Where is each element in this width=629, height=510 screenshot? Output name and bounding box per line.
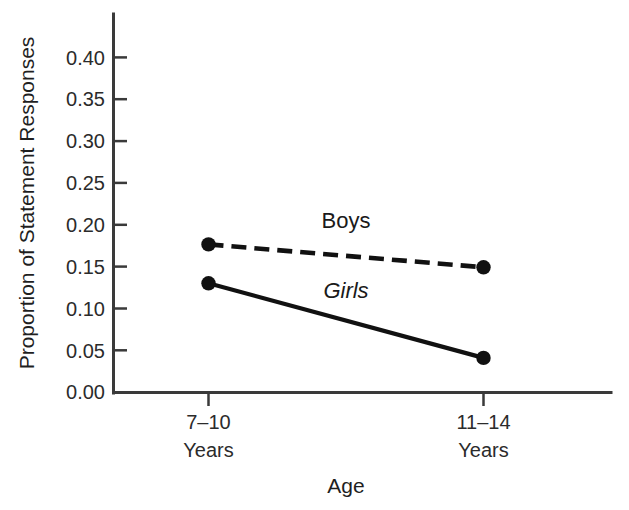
chart-figure: 0.40 0.35 0.30 0.25 0.20 0.15 0.10 0.05 …	[0, 0, 629, 510]
line-chart-canvas: 0.40 0.35 0.30 0.25 0.20 0.15 0.10 0.05 …	[0, 0, 629, 510]
x-tick-label-1-unit: Years	[458, 439, 508, 461]
y-tick-label-4: 0.20	[66, 214, 105, 236]
x-tick-label-1-range: 11–14	[456, 411, 510, 433]
y-axis-title: Proportion of Statement Responses	[15, 37, 38, 370]
x-axis-title: Age	[327, 474, 364, 497]
y-tick-label-3: 0.15	[66, 256, 105, 278]
y-tick-label-6: 0.30	[66, 130, 105, 152]
series-girls-point-0	[201, 276, 215, 290]
y-tick-label-1: 0.05	[66, 340, 105, 362]
series-boys-point-0	[201, 237, 215, 251]
series-boys-line	[209, 244, 484, 267]
y-tick-label-8: 0.40	[66, 47, 105, 69]
x-tick-label-0-range: 7–10	[186, 411, 231, 433]
y-tick-label-0: 0.00	[66, 381, 105, 403]
series-boys-point-1	[476, 260, 490, 274]
x-tick-label-0-unit: Years	[183, 439, 233, 461]
x-axis-ticks	[209, 393, 484, 407]
series-label-boys: Boys	[322, 208, 371, 233]
y-tick-label-5: 0.25	[66, 172, 105, 194]
y-axis-ticks	[114, 57, 128, 350]
series-boys: Boys	[201, 208, 490, 274]
series-girls-point-1	[476, 351, 490, 365]
y-tick-label-2: 0.10	[66, 298, 105, 320]
y-axis-tick-labels: 0.40 0.35 0.30 0.25 0.20 0.15 0.10 0.05 …	[66, 47, 105, 404]
series-girls: Girls	[201, 276, 490, 365]
x-axis-tick-labels: 7–10 Years 11–14 Years	[183, 411, 510, 461]
series-label-girls: Girls	[323, 278, 368, 303]
y-tick-label-7: 0.35	[66, 88, 105, 110]
